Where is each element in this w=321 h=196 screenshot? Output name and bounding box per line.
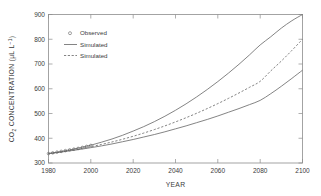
x-axis-ticks bbox=[49, 15, 303, 164]
legend-observed-marker-icon bbox=[69, 32, 72, 35]
y-tick-label-400: 400 bbox=[34, 135, 45, 142]
chart-legend: Observed Simulated Simulated bbox=[64, 29, 108, 58]
x-tick-label-2020: 2020 bbox=[126, 167, 141, 174]
x-tick-label-2080: 2080 bbox=[253, 167, 268, 174]
plot-frame bbox=[49, 15, 303, 164]
y-axis-ticks bbox=[49, 15, 303, 164]
y-tick-label-500: 500 bbox=[34, 110, 45, 117]
legend-label-simulated-solid: Simulated bbox=[80, 41, 108, 48]
y-tick-label-300: 300 bbox=[34, 159, 45, 166]
x-tick-label-2000: 2000 bbox=[84, 167, 99, 174]
y-tick-label-700: 700 bbox=[34, 60, 45, 67]
y-axis-title-unit: µL L bbox=[8, 45, 16, 59]
legend-label-observed: Observed bbox=[80, 29, 107, 36]
svg-text:CO2 CONCENTRATION (µL L−1): CO2 CONCENTRATION (µL L−1) bbox=[7, 36, 17, 143]
legend-label-simulated-dashed: Simulated bbox=[80, 52, 108, 59]
series-curve bbox=[49, 70, 303, 153]
x-tick-label-2060: 2060 bbox=[211, 167, 226, 174]
y-axis-title-prefix: CO bbox=[8, 132, 15, 143]
y-tick-label-800: 800 bbox=[34, 36, 45, 43]
co2-concentration-chart: 300 400 500 600 700 800 900 1980 2000 20… bbox=[0, 0, 321, 196]
x-axis-title: YEAR bbox=[166, 181, 186, 188]
y-tick-label-600: 600 bbox=[34, 85, 45, 92]
y-axis-title-middle: CONCENTRATION ( bbox=[8, 58, 16, 128]
chart-canvas: 300 400 500 600 700 800 900 1980 2000 20… bbox=[0, 0, 321, 196]
x-tick-label-1980: 1980 bbox=[41, 167, 56, 174]
x-tick-label-2100: 2100 bbox=[295, 167, 310, 174]
y-axis-title: CO2 CONCENTRATION (µL L−1) bbox=[7, 36, 17, 143]
y-axis-title-suffix: ) bbox=[8, 36, 16, 39]
y-tick-label-900: 900 bbox=[34, 11, 45, 18]
x-tick-label-2040: 2040 bbox=[168, 167, 183, 174]
